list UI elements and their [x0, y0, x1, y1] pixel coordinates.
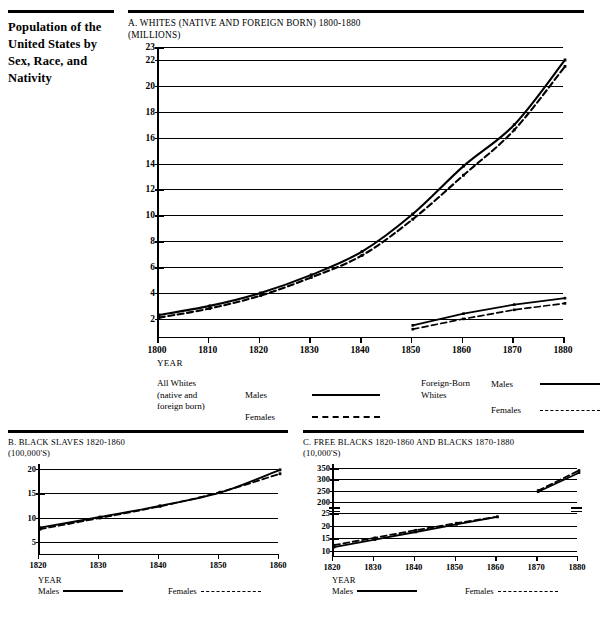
- gridline: [159, 112, 563, 113]
- legend-a-group1-line3: foreign born): [157, 401, 205, 413]
- y-tick: [155, 164, 164, 166]
- x-tick-label: 1870: [528, 562, 545, 572]
- y-tick-label: 20: [321, 521, 330, 531]
- sidebar-title-block: Population of the United States by Sex, …: [8, 10, 120, 87]
- y-tick: [330, 513, 339, 515]
- chart-a-plot: [157, 47, 563, 337]
- x-tick-label: 1850: [401, 345, 420, 355]
- solid-line-swatch-icon: [540, 383, 600, 385]
- dashed-line-swatch-icon: [201, 591, 261, 592]
- chart-b-x-axis-label: YEAR: [38, 575, 61, 585]
- y-tick: [330, 502, 339, 504]
- gridline: [334, 491, 577, 492]
- x-tick: [218, 554, 219, 559]
- legend-a-foreign-females-label: Females: [491, 405, 536, 415]
- chart-b-legend: Males Females: [8, 586, 288, 600]
- gridline: [40, 493, 278, 494]
- x-tick: [98, 554, 99, 559]
- chart-c-heading: C. FREE BLACKS 1820-1860 AND BLACKS 1870…: [303, 437, 584, 459]
- chart-a-y-axis-labels: 24681012141618202223: [128, 47, 155, 337]
- y-tick: [330, 468, 339, 470]
- legend-a-all-whites-males: Males: [245, 389, 380, 401]
- y-tick: [155, 138, 164, 140]
- y-tick: [155, 189, 164, 191]
- x-tick: [512, 337, 514, 343]
- chart-a-heading-line1: A. WHITES (NATIVE AND FOREIGN BORN) 1800…: [128, 18, 584, 30]
- y-tick: [155, 267, 164, 269]
- gridline: [159, 293, 563, 294]
- x-tick: [208, 337, 210, 343]
- chart-b-y-axis-labels: 5101520: [8, 464, 36, 554]
- gridline: [159, 60, 563, 61]
- solid-line-swatch-icon: [312, 394, 380, 397]
- y-tick: [155, 47, 164, 49]
- x-tick: [157, 337, 159, 343]
- chart-b-top-rule: [8, 430, 288, 433]
- legend-a-group1-line1: All Whites: [157, 378, 205, 390]
- x-tick-label: 1860: [487, 562, 504, 572]
- gridline: [159, 164, 563, 165]
- x-tick: [563, 337, 565, 343]
- dashed-line-swatch-icon: [312, 416, 380, 418]
- chart-c-y-axis-labels: 10152025200250300350: [303, 464, 330, 556]
- x-tick-label: 1830: [89, 560, 106, 570]
- y-tick-label: 350: [317, 463, 330, 473]
- sidebar-top-rule: [8, 10, 114, 13]
- y-tick: [155, 86, 164, 88]
- x-tick-label: 1850: [446, 562, 463, 572]
- y-tick-label: 16: [146, 133, 156, 143]
- x-tick: [309, 337, 311, 343]
- y-tick-label: 20: [146, 81, 156, 91]
- gridline: [159, 189, 563, 190]
- x-tick: [373, 556, 374, 561]
- chart-b-heading-line2: (100,000'S): [8, 448, 288, 459]
- y-tick-label: 18: [146, 107, 156, 117]
- y-tick: [330, 538, 339, 540]
- x-tick-label: 1880: [554, 345, 573, 355]
- chart-c-x-axis-label: YEAR: [332, 575, 355, 585]
- x-tick: [38, 554, 39, 559]
- gridline: [334, 502, 577, 503]
- gridline: [334, 513, 577, 514]
- gridline: [159, 267, 563, 268]
- gridline: [40, 469, 278, 470]
- chart-c: C. FREE BLACKS 1820-1860 AND BLACKS 1870…: [303, 430, 584, 600]
- chart-c-top-rule: [303, 430, 584, 433]
- legend-a-females-label: Females: [245, 412, 308, 422]
- axis-break-mark: [571, 507, 582, 509]
- x-tick-label: 1860: [269, 560, 286, 570]
- x-tick-label: 1840: [351, 345, 370, 355]
- chart-c-series-svg: [334, 464, 579, 556]
- y-tick: [155, 319, 164, 321]
- solid-line-swatch-icon: [357, 590, 417, 592]
- y-tick: [36, 518, 45, 520]
- axis-break-mark: [329, 507, 340, 509]
- y-tick-label: 15: [27, 488, 36, 498]
- x-tick: [414, 556, 415, 561]
- x-tick-label: 1820: [249, 345, 268, 355]
- y-tick-label: 23: [146, 42, 156, 52]
- dashed-line-swatch-icon: [540, 410, 600, 411]
- x-tick: [577, 556, 578, 561]
- x-tick: [495, 556, 496, 561]
- y-tick: [155, 293, 164, 295]
- gridline: [334, 551, 577, 552]
- x-tick-label: 1870: [503, 345, 522, 355]
- y-tick: [36, 542, 45, 544]
- gridline: [159, 47, 563, 48]
- gridline: [40, 518, 278, 519]
- chart-b-series-svg: [40, 464, 280, 554]
- y-tick-label: 15: [321, 533, 330, 543]
- legend-a-group1-line2: (native and: [157, 390, 205, 402]
- y-tick: [36, 469, 45, 471]
- gridline: [159, 319, 563, 320]
- legend-a-foreign-males-label: Males: [491, 379, 536, 389]
- y-tick: [155, 215, 164, 217]
- legend-c-females-label: Females: [465, 586, 494, 596]
- legend-c-males: Males: [332, 586, 417, 596]
- legend-b-females-label: Females: [168, 586, 197, 596]
- y-tick-label: 20: [27, 464, 36, 474]
- x-tick: [536, 556, 537, 561]
- x-tick-label: 1860: [452, 345, 471, 355]
